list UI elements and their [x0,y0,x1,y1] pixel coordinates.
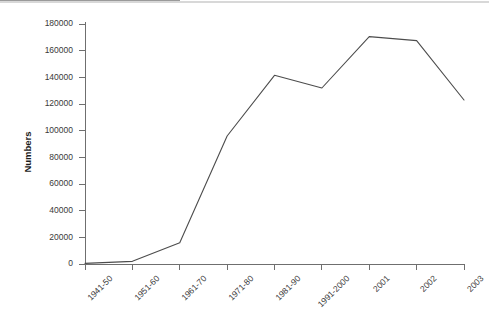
y-tick-label: 140000 [45,72,74,82]
y-tick-label: 120000 [45,98,74,108]
chart-canvas: Numbers 180000 160000 140000 120000 1000… [0,0,489,335]
x-axis-tick-marks [85,264,464,270]
x-tick-label: 1961-70 [179,273,208,302]
y-tick-label: 20000 [49,232,73,242]
y-axis-tick-labels: 180000 160000 140000 120000 100000 80000… [45,18,74,268]
y-tick-label: 60000 [49,178,73,188]
x-tick-label: 2003 [465,273,486,294]
x-tick-label: 2002 [418,273,439,294]
x-tick-label: 1991-2000 [316,273,352,309]
y-tick-label: 40000 [49,205,73,215]
y-tick-label: 0 [68,258,73,268]
line-chart: Numbers 180000 160000 140000 120000 1000… [0,0,489,335]
x-axis-tick-labels: 1941-50 1951-60 1961-70 1971-80 1981-90 … [85,273,485,309]
y-tick-label: 160000 [45,45,74,55]
x-tick-label: 1951-60 [132,273,161,302]
y-tick-label: 180000 [45,18,74,28]
y-tick-label: 100000 [45,125,74,135]
x-tick-label: 1971-80 [226,273,255,302]
y-axis-tick-marks [79,24,85,264]
x-tick-label: 1981-90 [273,273,302,302]
y-tick-label: 80000 [49,152,73,162]
x-tick-label: 2001 [371,273,392,294]
series-line-numbers [85,37,464,264]
x-tick-label: 1941-50 [85,273,114,302]
y-axis-title: Numbers [22,131,33,172]
